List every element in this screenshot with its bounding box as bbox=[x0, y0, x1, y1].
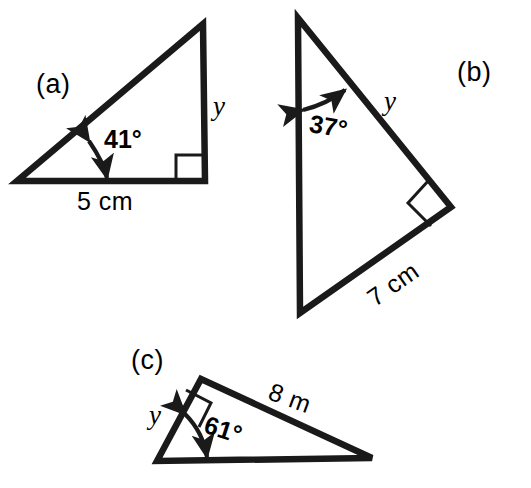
triangle-a bbox=[17, 24, 205, 181]
figure-canvas: (a) 41° y 5 cm (b) 37° y 7 cm (c) 61° y … bbox=[0, 0, 531, 488]
unknown-label-b: y bbox=[384, 88, 396, 115]
triangle-b-right-angle-marker bbox=[408, 180, 431, 226]
triangle-b-outline bbox=[298, 18, 451, 313]
geometry-diagram-svg bbox=[0, 0, 531, 488]
part-label-c: (c) bbox=[131, 347, 164, 374]
triangle-a-right-angle-marker bbox=[176, 155, 204, 181]
triangle-b-angle-arc bbox=[303, 90, 345, 110]
triangle-b bbox=[298, 18, 451, 313]
side-label-a: 5 cm bbox=[77, 189, 133, 214]
part-label-b: (b) bbox=[457, 59, 492, 86]
angle-label-b: 37° bbox=[308, 111, 350, 142]
triangle-c bbox=[157, 379, 372, 461]
angle-label-a: 41° bbox=[104, 127, 142, 152]
unknown-label-c: y bbox=[149, 402, 161, 429]
unknown-label-a: y bbox=[213, 93, 225, 120]
part-label-a: (a) bbox=[36, 71, 71, 98]
